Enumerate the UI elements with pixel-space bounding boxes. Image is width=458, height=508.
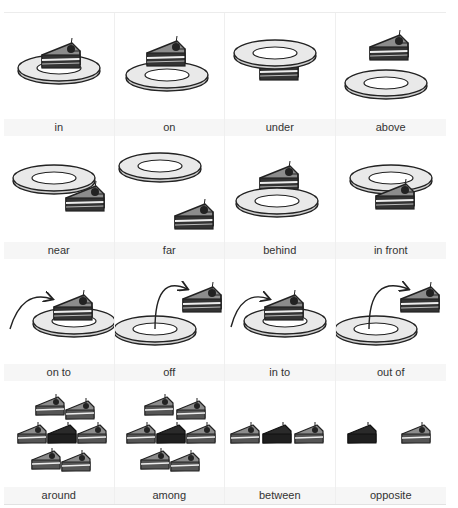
cake-moving-out-of-plate-illustration [336, 259, 446, 359]
preposition-grid: in on under above near far [4, 12, 446, 505]
card-in-to: in to [225, 259, 336, 382]
card-under: under [225, 13, 336, 136]
cake-near-plate-illustration [4, 136, 114, 236]
cake-far-from-plate-illustration [115, 136, 225, 236]
card-label: above [336, 119, 447, 136]
card-on: on [115, 13, 226, 136]
cake-in-front-of-plate-illustration [336, 136, 446, 236]
dark-cake-among-others-illustration [115, 381, 225, 481]
card-out-of: out of [336, 259, 447, 382]
card-between: between [225, 381, 336, 504]
cake-moving-onto-plate-illustration [4, 259, 114, 359]
card-label: near [4, 242, 114, 259]
card-label: off [115, 364, 225, 381]
card-far: far [115, 136, 226, 259]
card-on-to: on to [4, 259, 115, 382]
card-label: out of [336, 364, 447, 381]
cake-moving-into-plate-illustration [225, 259, 335, 359]
card-label: on to [4, 364, 114, 381]
card-label: in front [336, 242, 447, 259]
cake-on-plate-illustration [115, 13, 225, 113]
dark-cake-surrounded-illustration [4, 381, 114, 481]
card-label: in [4, 119, 114, 136]
card-above: above [336, 13, 447, 136]
dark-cake-opposite-light-cake-illustration [336, 381, 446, 481]
card-label: under [225, 119, 335, 136]
card-label: between [225, 487, 335, 504]
card-off: off [115, 259, 226, 382]
card-label: in to [225, 364, 335, 381]
card-among: among [115, 381, 226, 504]
card-label: among [115, 487, 225, 504]
card-in: in [4, 13, 115, 136]
card-label: around [4, 487, 114, 504]
dark-cake-between-two-illustration [225, 381, 335, 481]
cake-behind-plate-illustration [225, 136, 335, 236]
card-label: on [115, 119, 225, 136]
cake-in-plate-illustration [4, 13, 114, 113]
card-label: opposite [336, 487, 447, 504]
card-near: near [4, 136, 115, 259]
card-behind: behind [225, 136, 336, 259]
card-opposite: opposite [336, 381, 447, 504]
card-in-front: in front [336, 136, 447, 259]
card-around: around [4, 381, 115, 504]
card-label: behind [225, 242, 335, 259]
cake-above-plate-illustration [336, 13, 446, 113]
cake-moving-off-plate-illustration [115, 259, 225, 359]
card-label: far [115, 242, 225, 259]
cake-under-plate-illustration [225, 13, 335, 113]
